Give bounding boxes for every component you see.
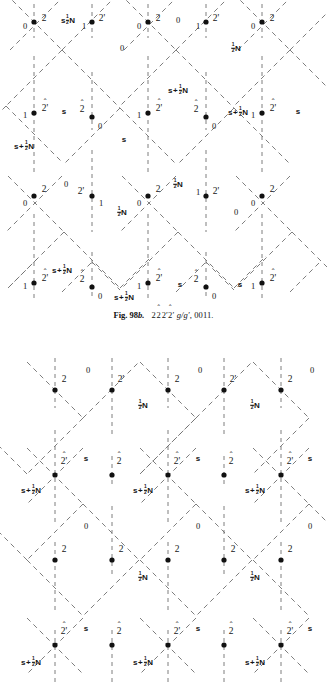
diagonal-mirror-lines <box>0 0 327 292</box>
figure-98b: 0 2 1 2' 0 2 1 2' 0 2 1 ˆ2' ˆ2 0 1 ˆ2' ˆ… <box>0 0 327 300</box>
caption-symbol-spec: 2 ˆ2 2′ˆ2′ g/g′, 0011. <box>151 310 213 320</box>
caption-figure-number: Fig. 98b. <box>113 310 144 320</box>
figure-caption: Fig. 98b.2 ˆ2 2′ˆ2′ g/g′, 0011. <box>0 310 327 320</box>
vertical-axis-lines <box>34 0 262 300</box>
figure-lower: 2 2' 2 2' 2 ˆ2' ˆ2 ˆ2' ˆ2 ˆ2' 2 2 2 2 2 … <box>0 330 327 682</box>
upper-diagram-lines <box>0 0 327 300</box>
lower-diagram-lines <box>0 330 327 682</box>
vertical-axis-lines <box>55 358 281 682</box>
diagonal-mirror-lines <box>0 362 327 674</box>
